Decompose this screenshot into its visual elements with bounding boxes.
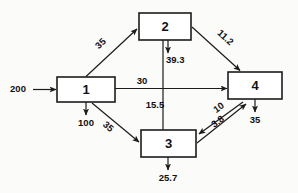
node-label-2: 2 bbox=[161, 19, 168, 34]
label-edge-1-to-2: 35 bbox=[93, 35, 109, 51]
node-label-4: 4 bbox=[251, 78, 259, 93]
node-label-3: 3 bbox=[165, 136, 172, 151]
label-edge-2-to-3: 15.5 bbox=[146, 99, 165, 110]
label-output-39-3: 39.3 bbox=[166, 54, 185, 65]
label-edge-3-to-4: 3.8 bbox=[209, 113, 226, 130]
node-label-1: 1 bbox=[82, 82, 89, 97]
edge-1-to-2 bbox=[86, 29, 137, 77]
flow-diagram-canvas: 200 35 11.2 30 15.5 35 10 3.8 1 2 3 4 bbox=[0, 0, 298, 193]
label-edge-1-to-4: 30 bbox=[137, 75, 148, 86]
flow-diagram-svg: 200 35 11.2 30 15.5 35 10 3.8 1 2 3 4 bbox=[0, 0, 298, 193]
label-output-25-7: 25.7 bbox=[159, 172, 178, 183]
label-output-100: 100 bbox=[78, 117, 94, 128]
label-output-35: 35 bbox=[250, 114, 261, 125]
label-edge-2-to-4: 11.2 bbox=[215, 27, 236, 47]
label-input-200: 200 bbox=[10, 83, 26, 94]
edge-1-to-3 bbox=[92, 103, 139, 142]
